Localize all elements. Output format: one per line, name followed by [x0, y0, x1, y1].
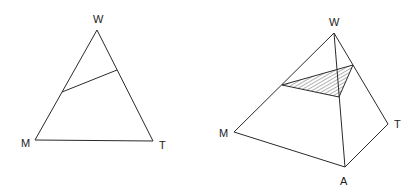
edge-a-t [345, 124, 388, 167]
vertex-label-m: M [21, 137, 30, 149]
triangle-outline [35, 30, 153, 141]
vertex-label-a: A [340, 175, 348, 187]
vertex-label-t: T [159, 139, 166, 151]
ternary-triangle-figure: W M T [21, 13, 166, 151]
edge-m-a [234, 132, 345, 167]
edge-w-a [334, 33, 345, 167]
tetrahedron-figure: W M T A [219, 16, 401, 187]
shaded-cross-section [282, 65, 353, 97]
vertex-label-w: W [93, 13, 104, 25]
vertex-label-w: W [329, 16, 340, 28]
diagram-canvas: W M T W M T A [0, 0, 418, 192]
cross-section-line [62, 70, 117, 92]
vertex-label-m: M [219, 127, 228, 139]
vertex-label-t: T [394, 118, 401, 130]
